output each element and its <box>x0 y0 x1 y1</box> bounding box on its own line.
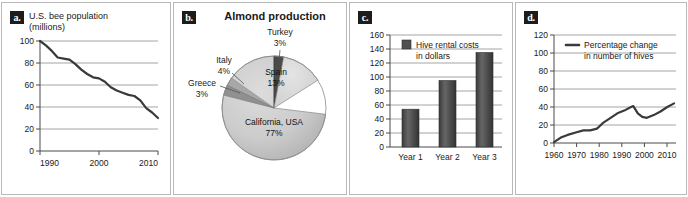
pie-value-turkey: 3% <box>274 38 287 48</box>
panel-a-series-line <box>40 41 158 118</box>
panel-a-ytick-40: 40 <box>25 102 35 112</box>
panel-c-ytick-120: 120 <box>370 58 384 68</box>
panel-label-c: c. <box>358 11 372 24</box>
panel-c-xtick-year2: Year 2 <box>435 152 460 162</box>
panel-c-ytick-160: 160 <box>370 30 384 40</box>
panel-a-title: U.S. bee population (millions) <box>29 11 149 33</box>
panel-d-xtick-1970: 1970 <box>567 150 586 160</box>
bar-year-1 <box>402 109 419 147</box>
panel-c-ytick-20: 20 <box>375 128 385 138</box>
pie-value-spain: 13% <box>267 78 284 88</box>
panel-c-ytick-80: 80 <box>375 86 385 96</box>
panel-d-legend-line2: in number of hives <box>584 51 653 61</box>
pie-label-turkey: Turkey <box>267 27 293 37</box>
panel-a-bee-population: a. U.S. bee population (millions) <box>1 2 171 195</box>
panel-d-ytick-20: 20 <box>539 120 549 130</box>
panel-d-y-ticks <box>550 35 554 143</box>
pie-value-california: 77% <box>265 128 282 138</box>
panel-c-legend-swatch <box>402 40 411 49</box>
panel-d-xtick-1980: 1980 <box>590 150 609 160</box>
panel-d-xtick-2010: 2010 <box>658 150 677 160</box>
panel-d-xtick-1960: 1960 <box>545 150 564 160</box>
panel-d-percentage-change-hives: d. 120 100 <box>515 2 687 195</box>
panel-a-ytick-0: 0 <box>29 146 34 156</box>
panel-c-chart: 160 140 120 100 80 60 40 20 0 Year 1 Yea… <box>350 3 512 196</box>
panel-d-ytick-120: 120 <box>534 30 548 40</box>
panel-c-y-ticks <box>386 35 390 147</box>
four-panel-figure: a. U.S. bee population (millions) <box>0 0 688 197</box>
panel-a-ytick-100: 100 <box>20 36 34 46</box>
panel-a-xtick-2000: 2000 <box>90 158 109 168</box>
panel-c-xtick-year1: Year 1 <box>398 152 423 162</box>
panel-d-ytick-0: 0 <box>543 138 548 148</box>
panel-d-xtick-1990: 1990 <box>612 150 631 160</box>
panel-a-xtick-2010: 2010 <box>139 158 158 168</box>
panel-c-ytick-0: 0 <box>379 142 384 152</box>
panel-c-legend-line2: in dollars <box>416 51 450 61</box>
panel-a-ytick-60: 60 <box>25 80 35 90</box>
panel-a-ytick-20: 20 <box>25 124 35 134</box>
pie-label-california: California, USA <box>245 117 303 127</box>
panel-a-title-line2: (millions) <box>29 22 149 33</box>
panel-d-ytick-100: 100 <box>534 48 548 58</box>
pie-label-italy: Italy <box>216 55 232 65</box>
panel-c-legend-line1: Hive rental costs <box>416 40 479 50</box>
panel-d-series-line <box>554 103 674 142</box>
panel-b-chart: Turkey 3% Spain 13% Italy 4% Greece 3% C… <box>174 3 346 196</box>
pie-label-greece: Greece <box>188 78 216 88</box>
panel-d-ytick-40: 40 <box>539 102 549 112</box>
pie-value-greece: 3% <box>196 89 209 99</box>
bar-year-3 <box>476 53 493 148</box>
panel-c-hive-rental-costs: c. <box>349 2 513 195</box>
panel-a-x-ticks <box>40 151 158 155</box>
panel-d-chart: 120 100 80 60 40 20 0 1960 1970 1980 199… <box>516 3 686 196</box>
panel-a-title-line1: U.S. bee population <box>29 11 149 22</box>
panel-a-ytick-80: 80 <box>25 58 35 68</box>
panel-c-xtick-year3: Year 3 <box>472 152 497 162</box>
panel-label-b: b. <box>182 11 196 24</box>
bar-year-2 <box>439 81 456 148</box>
panel-d-xtick-2000: 2000 <box>635 150 654 160</box>
panel-c-ytick-60: 60 <box>375 100 385 110</box>
panel-d-ytick-80: 80 <box>539 66 549 76</box>
pie-value-italy: 4% <box>218 66 231 76</box>
panel-a-y-ticks <box>36 41 40 151</box>
panel-d-ytick-60: 60 <box>539 84 549 94</box>
pie-label-spain: Spain <box>265 67 287 77</box>
panel-label-a: a. <box>10 11 24 24</box>
panel-b-almond-production: b. Almond production <box>173 2 347 195</box>
panel-a-xtick-1990: 1990 <box>40 158 59 168</box>
panel-c-ytick-140: 140 <box>370 44 384 54</box>
panel-c-ytick-40: 40 <box>375 114 385 124</box>
panel-a-gridlines <box>40 41 158 129</box>
panel-b-title: Almond production <box>210 11 340 22</box>
panel-d-legend-line1: Percentage change <box>584 40 658 50</box>
panel-label-d: d. <box>524 11 538 24</box>
panel-c-ytick-100: 100 <box>370 72 384 82</box>
panel-d-x-ticks <box>554 143 667 147</box>
